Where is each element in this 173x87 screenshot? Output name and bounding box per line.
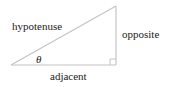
opposite-label: opposite [122,28,159,40]
hypotenuse-label: hypotenuse [12,20,62,32]
angle-theta-label: θ [36,53,42,65]
adjacent-label: adjacent [50,70,87,82]
hypotenuse-side [11,6,116,65]
right-triangle-diagram: hypotenuse opposite adjacent θ [0,0,173,87]
triangle [11,6,116,65]
right-angle-marker [110,59,116,65]
